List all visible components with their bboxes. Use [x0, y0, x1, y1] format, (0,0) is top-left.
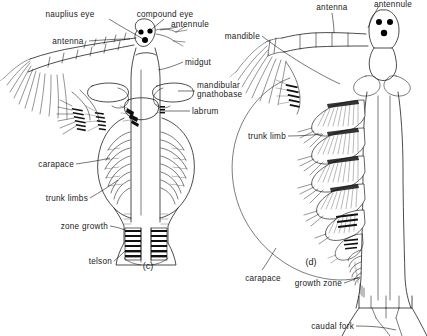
compound-eye-left-d [376, 19, 382, 25]
compound-eye-right-d [387, 19, 393, 25]
panel-d-caption: (d) [306, 257, 317, 267]
anatomy-figure: nauplius eye compound eye antennule ante… [0, 0, 427, 336]
anatomy-illustration: nauplius eye compound eye antennule ante… [0, 0, 427, 336]
label-caudal-fork: caudal fork [311, 322, 354, 331]
label-mandible: mandible [225, 32, 260, 41]
compound-eye-left-c [138, 29, 143, 34]
label-trunk-limb-d: trunk limb [248, 132, 286, 141]
label-mandibular: mandibular [197, 81, 240, 90]
label-antenna-c: antenna [52, 37, 84, 46]
label-trunk-limbs: trunk limbs [46, 194, 88, 203]
label-compound-eye: compound eye [137, 10, 194, 19]
label-growth-zone: growth zone [295, 279, 343, 288]
label-carapace-d: carapace [245, 274, 281, 283]
label-midgut: midgut [185, 58, 212, 67]
label-labrum: labrum [192, 107, 219, 116]
label-carapace-c: carapace [38, 160, 74, 169]
label-telson: telson [89, 257, 113, 266]
panel-c-caption: (c) [143, 261, 154, 271]
label-antenna-d: antenna [316, 3, 348, 12]
nauplius-eye-c [142, 37, 148, 43]
label-gnathobase: gnathobase [197, 90, 242, 99]
label-antennule-d: antennule [374, 0, 412, 9]
nauplius-eye-d [381, 30, 387, 36]
label-zone-growth: zone growth [61, 222, 109, 231]
label-antennule-c: antennule [171, 20, 209, 29]
label-nauplius-eye: nauplius eye [46, 10, 95, 19]
